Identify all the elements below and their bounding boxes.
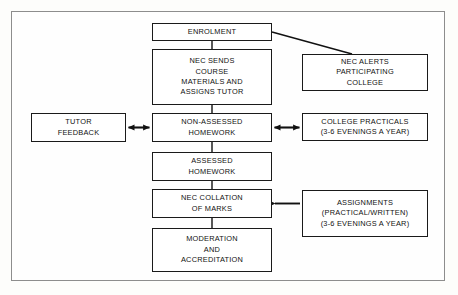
node-label-line: TUTOR xyxy=(65,117,91,127)
node-label-line: ASSIGNMENTS xyxy=(337,198,393,208)
node-enrolment: ENROLMENT xyxy=(152,23,272,41)
node-label-line: PARTICIPATING xyxy=(336,67,394,77)
node-label-line: NEC COLLATION xyxy=(181,193,243,203)
node-label-line: (3-6 EVENINGS A YEAR) xyxy=(321,219,410,229)
node-label-line: (3-6 EVENINGS A YEAR) xyxy=(321,127,410,137)
node-label-line: HOMEWORK xyxy=(189,128,236,138)
node-label-line: (PRACTICAL/WRITTEN) xyxy=(322,208,408,218)
node-label-line: ACCREDITATION xyxy=(181,255,243,265)
node-tutor-feedback: TUTORFEEDBACK xyxy=(31,113,126,142)
node-label-line: NEC SENDS xyxy=(189,56,234,66)
node-label-line: ASSESSED xyxy=(191,156,233,166)
node-assessed-homework: ASSESSEDHOMEWORK xyxy=(152,152,272,181)
node-label-line: NON-ASSESSED xyxy=(181,117,242,127)
node-moderation-and-accreditation: MODERATIONANDACCREDITATION xyxy=(152,228,272,272)
node-nec-alerts-participating-college: NEC ALERTSPARTICIPATINGCOLLEGE xyxy=(302,54,428,91)
flowchart-page: ENROLMENTNEC SENDSCOURSEMATERIALS ANDASS… xyxy=(0,0,458,295)
node-label-line: FEEDBACK xyxy=(58,128,100,138)
node-label-line: ENROLMENT xyxy=(188,27,236,37)
node-label-line: COLLEGE PRACTICALS xyxy=(321,117,408,127)
node-label-line: COLLEGE xyxy=(347,78,383,88)
node-college-practicals: COLLEGE PRACTICALS(3-6 EVENINGS A YEAR) xyxy=(302,113,428,141)
node-label-line: MODERATION xyxy=(186,234,238,244)
node-label-line: AND xyxy=(204,245,220,255)
node-label-line: COURSE xyxy=(196,67,229,77)
connector-enrolment-to-nec-alerts xyxy=(272,32,352,54)
node-label-line: HOMEWORK xyxy=(189,167,236,177)
node-non-assessed-homework: NON-ASSESSEDHOMEWORK xyxy=(152,113,272,142)
node-nec-collation-of-marks: NEC COLLATIONOF MARKS xyxy=(152,189,272,218)
node-label-line: NEC ALERTS xyxy=(341,57,389,67)
node-label-line: OF MARKS xyxy=(192,204,232,214)
node-label-line: MATERIALS AND xyxy=(181,77,242,87)
node-label-line: ASSIGNS TUTOR xyxy=(181,87,244,97)
node-nec-sends-course-materials: NEC SENDSCOURSEMATERIALS ANDASSIGNS TUTO… xyxy=(152,49,272,105)
node-assignments: ASSIGNMENTS(PRACTICAL/WRITTEN)(3-6 EVENI… xyxy=(302,190,428,237)
